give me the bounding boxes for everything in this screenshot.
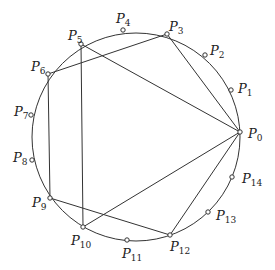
point-p12 <box>168 233 172 237</box>
point-p8 <box>30 158 34 162</box>
chord-p6-p9 <box>48 74 50 198</box>
label-p14: P14 <box>241 171 262 188</box>
point-p14 <box>230 175 234 179</box>
label-p4: P4 <box>115 11 131 28</box>
point-p0 <box>238 130 242 134</box>
chord-p9-p12 <box>50 198 170 235</box>
point-p1 <box>229 88 233 92</box>
point-p13 <box>206 210 210 214</box>
label-p1: P1 <box>237 81 252 98</box>
label-p0: P0 <box>247 126 263 143</box>
label-p5: P5 <box>67 28 83 45</box>
label-p9: P9 <box>31 195 47 212</box>
label-p7: P7 <box>13 104 29 121</box>
point-p11 <box>125 238 129 242</box>
point-p9 <box>48 196 52 200</box>
chord-p0-p3 <box>167 34 240 132</box>
label-p6: P6 <box>30 59 46 76</box>
point-p2 <box>203 53 207 57</box>
chord-p5-p10 <box>81 44 83 227</box>
label-p13: P13 <box>215 208 236 225</box>
label-p11: P11 <box>121 246 142 263</box>
label-p3: P3 <box>168 19 184 36</box>
point-p10 <box>81 225 85 229</box>
point-p4 <box>121 28 125 32</box>
circle-chord-diagram: P0P1P2P3P4P5P6P7P8P9P10P11P12P13P14 <box>0 0 275 270</box>
point-p7 <box>29 113 33 117</box>
point-p6 <box>46 72 50 76</box>
chords <box>48 34 240 235</box>
chord-p3-p6 <box>48 34 167 74</box>
label-p10: P10 <box>70 233 91 250</box>
label-p8: P8 <box>12 150 28 167</box>
label-p12: P12 <box>169 239 190 256</box>
label-p2: P2 <box>209 43 224 60</box>
